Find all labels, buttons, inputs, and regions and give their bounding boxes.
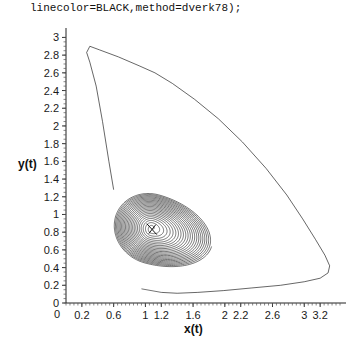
- y-tick-label: 1.8: [44, 138, 59, 150]
- trajectory-curves: [87, 46, 330, 293]
- y-tick-label: 2.8: [44, 49, 59, 61]
- y-tick-label: 2.6: [44, 67, 59, 79]
- x-axis-title: x(t): [184, 322, 203, 336]
- axes-group: [62, 28, 346, 307]
- x-tick-label: 2.6: [265, 309, 280, 321]
- orbit-connector-path: [141, 289, 161, 293]
- x-tick-label: 0.6: [106, 309, 121, 321]
- y-tick-label: 0.4: [44, 262, 59, 274]
- phase-portrait-plot: 00.20.40.60.811.21.41.61.822.22.42.62.83…: [0, 0, 351, 349]
- y-tick-label: 2: [53, 120, 59, 132]
- y-tick-label: 1: [53, 208, 59, 220]
- x-tick-label: 3: [301, 309, 307, 321]
- outer-orbit-path: [87, 46, 330, 293]
- x-tick-label: 1: [142, 309, 148, 321]
- y-tick-label: 2.2: [44, 102, 59, 114]
- y-tick-label: 0.6: [44, 244, 59, 256]
- y-tick-label: 3: [53, 31, 59, 43]
- y-tick-label: 1.4: [44, 173, 59, 185]
- x-tick-label: 1.6: [185, 309, 200, 321]
- x-tick-label: 1.2: [154, 309, 169, 321]
- x-tick-label: 2.2: [233, 309, 248, 321]
- inner-spiral-path: [114, 194, 211, 267]
- y-tick-label: 1.2: [44, 191, 59, 203]
- y-axis-title: y(t): [18, 157, 37, 171]
- y-tick-label: 1.6: [44, 155, 59, 167]
- x-tick-label: 0.2: [74, 309, 89, 321]
- y-tick-label: 2.4: [44, 85, 59, 97]
- origin-tick-label: 0: [54, 308, 60, 320]
- axis-labels-group: 00.20.40.60.811.21.41.61.822.22.42.62.83…: [44, 31, 328, 321]
- x-tick-label: 3.2: [312, 309, 327, 321]
- plot-screenshot: linecolor=BLACK,method=dverk78); 00.20.4…: [0, 0, 351, 349]
- x-tick-label: 2: [222, 309, 228, 321]
- y-tick-label: 0.2: [44, 279, 59, 291]
- y-tick-label: 0.8: [44, 226, 59, 238]
